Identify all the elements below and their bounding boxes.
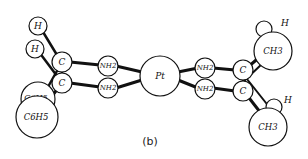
pt-label: Pt xyxy=(154,71,165,81)
nh2-left-lower: NH2 xyxy=(98,78,118,98)
nh2-right-lower-label: NH2 xyxy=(196,85,214,93)
bond-c-n xyxy=(70,62,100,65)
h-right-lower-label: H xyxy=(283,95,292,105)
h-right-upper-label: H xyxy=(280,18,289,28)
bond-c-n xyxy=(70,83,100,87)
bond-n-pt xyxy=(116,66,142,72)
phenyl-lower-label: C6H5 xyxy=(24,112,49,122)
h-mid-label: H xyxy=(30,44,39,54)
ch3-upper: CH3 xyxy=(254,32,292,70)
bond-n-c xyxy=(213,88,235,91)
nh2-left-upper-label: NH2 xyxy=(99,62,117,70)
c-left-upper: C xyxy=(52,52,72,72)
c-right-upper-label: C xyxy=(240,65,247,75)
phenyl-lower: C6H5 xyxy=(16,96,58,138)
ch3-lower: CH3 xyxy=(249,108,287,146)
c-right-upper: C xyxy=(233,60,253,80)
c-right-lower-label: C xyxy=(240,86,247,96)
c-left-lower-label: C xyxy=(59,78,66,88)
molecule-diagram: C6H5 C6H5 H H C C NH2 NH2 Pt NH2 xyxy=(0,0,308,159)
ch3-lower-label: CH3 xyxy=(258,122,277,132)
nh2-left-upper: NH2 xyxy=(98,56,118,76)
nh2-right-upper-label: NH2 xyxy=(196,64,214,72)
figure-caption: (b) xyxy=(142,135,158,148)
c-left-lower: C xyxy=(52,73,72,93)
c-left-upper-label: C xyxy=(59,57,66,67)
h-top: H xyxy=(29,17,47,35)
nh2-left-lower-label: NH2 xyxy=(99,84,117,92)
nh2-right-upper: NH2 xyxy=(195,58,215,78)
nh2-right-lower: NH2 xyxy=(195,79,215,99)
bond-n-c xyxy=(213,68,235,70)
pt-atom: Pt xyxy=(140,56,180,96)
ch3-upper-label: CH3 xyxy=(263,46,282,56)
h-mid: H xyxy=(26,40,44,58)
bond-n-pt xyxy=(116,80,142,88)
c-right-lower: C xyxy=(233,81,253,101)
h-top-label: H xyxy=(33,21,42,31)
